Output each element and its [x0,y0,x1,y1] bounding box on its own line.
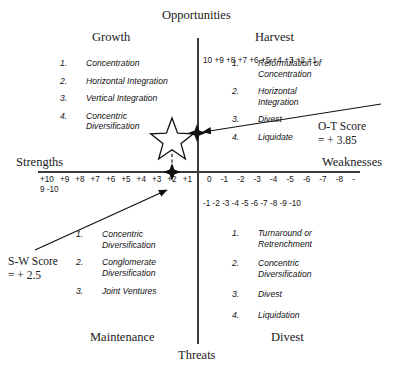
list-item: 3. Joint Ventures [60,286,196,297]
list-item: 3. Vertical Integration [60,93,196,104]
x-tick: -2 [237,175,244,184]
list-item-number: 1. [76,229,92,240]
y-tick: +1 [307,55,316,66]
list-item-number: 3. [232,114,248,125]
list-item-number: 1. [60,58,76,69]
horizontal-axis [38,171,360,173]
list-item: 2. Concentric Diversification [232,258,352,279]
x-tick: 0 [207,175,212,184]
list-item-label: Concentric Diversification [102,229,170,250]
x-tick: -7 [319,175,326,184]
x-tick: +7 [91,175,100,184]
x-tick: +5 [121,175,130,184]
y-tick: -10 [289,198,301,210]
list-item: 1. Concentric Diversification [60,229,196,250]
y-tick: -9 [280,198,287,210]
x-axis-tick-overflow: 9 -10 [40,185,59,194]
ot-score-callout: O-T Score = + 3.85 [318,119,366,147]
list-item-number: 2. [60,76,76,87]
x-tick: +8 [75,175,84,184]
y-tick: +5 [261,55,270,66]
sw-score-value: = + 2.5 [8,268,58,282]
y-tick: -7 [260,198,267,210]
list-item-number: 4. [60,111,76,122]
x-tick: - [352,175,355,184]
strategy-list-maintenance: 1. Concentric Diversification 2. Conglom… [60,229,196,304]
list-item-label: Concentric Diversification [86,111,158,132]
y-tick: +6 [249,55,258,66]
y-tick: -8 [270,198,277,210]
y-axis-positive-ticks: 10 +9 +8 +7 +6 +5 +4 +3 +2 +1 [203,55,317,66]
x-tick: +10 [40,175,54,184]
vertical-axis [197,38,199,344]
list-item: 3. Divest [232,289,352,300]
x-tick: -8 [336,175,343,184]
x-tick: +6 [106,175,115,184]
x-tick: +1 [183,175,192,184]
quadrant-name-divest: Divest [271,330,304,345]
list-item-label: Concentration [86,58,196,69]
strategy-list-divest: 1. Turnaround or Retrenchment 2. Concent… [232,228,352,327]
axis-label-threats: Threats [178,348,215,363]
list-item-label: Conglomerate Diversification [102,257,176,278]
list-item-label: Turnaround or Retrenchment [258,228,330,249]
list-item: 1. Turnaround or Retrenchment [232,228,352,249]
y-tick: 10 [203,55,212,66]
list-item: 2. Conglomerate Diversification [60,257,196,278]
list-item-label: Horizontal Integration [258,86,310,107]
quadrant-name-growth: Growth [92,30,130,45]
x-tick: +2 [167,175,176,184]
list-item-number: 3. [232,289,248,300]
strategy-list-growth: 1. Concentration 2. Horizontal Integrati… [60,58,196,139]
list-item-number: 2. [232,258,248,269]
list-item: 1. Concentration [60,58,196,69]
list-item-number: 4. [232,132,248,143]
axis-label-weaknesses: Weaknesses [322,155,382,170]
y-tick: +9 [214,55,223,66]
y-tick: -6 [251,198,258,210]
list-item: 4. Liquidation [232,310,352,321]
list-item-number: 4. [232,310,248,321]
sw-score-callout: S-W Score = + 2.5 [8,254,58,282]
x-tick: -1 [221,175,228,184]
list-item: 2. Horizontal Integration [232,86,342,107]
list-item-label: Vertical Integration [86,93,196,104]
list-item-label: Concentric Diversification [258,258,326,279]
x-tick: +4 [137,175,146,184]
list-item: 4. Concentric Diversification [60,111,196,132]
y-tick: +4 [273,55,282,66]
list-item-label: Divest [258,289,352,300]
x-tick: +3 [152,175,161,184]
x-axis-right-ticks: 0 -1 -2 -3 -4 -5 -6 -7 -8 - [207,175,355,184]
list-item-number: 3. [76,286,92,297]
y-tick: -3 [222,198,229,210]
quadrant-name-harvest: Harvest [255,30,294,45]
quadrant-name-maintenance: Maintenance [90,330,155,345]
ot-score-label: O-T Score [318,119,366,133]
y-axis-negative-ticks: -1 -2 -3 -4 -5 -6 -7 -8 -9 -10 [203,198,301,210]
axis-label-opportunities: Opportunities [162,8,231,23]
space-matrix-diagram: Opportunities Threats Strengths Weakness… [0,0,396,371]
ot-score-value: = + 3.85 [318,133,366,147]
x-tick: -6 [303,175,310,184]
y-tick: +8 [226,55,235,66]
list-item-number: 3. [60,93,76,104]
sw-score-label: S-W Score [8,254,58,268]
x-axis-left-ticks: +10 +9 +8 +7 +6 +5 +4 +3 +2 +1 [40,175,192,184]
y-tick: +7 [238,55,247,66]
y-tick: +3 [284,55,293,66]
y-tick: -1 [203,198,210,210]
list-item-number: 2. [76,257,92,268]
list-item-number: 1. [232,228,248,239]
x-tick: -5 [286,175,293,184]
y-tick: -5 [241,198,248,210]
list-item-label: Horizontal Integration [86,76,196,87]
x-tick: -3 [254,175,261,184]
list-item-number: 2. [232,86,248,97]
x-tick: -4 [270,175,277,184]
list-item: 2. Horizontal Integration [60,76,196,87]
x-tick: +9 [60,175,69,184]
y-tick: -2 [213,198,220,210]
list-item-label: Liquidation [258,310,352,321]
y-tick: -4 [232,198,239,210]
